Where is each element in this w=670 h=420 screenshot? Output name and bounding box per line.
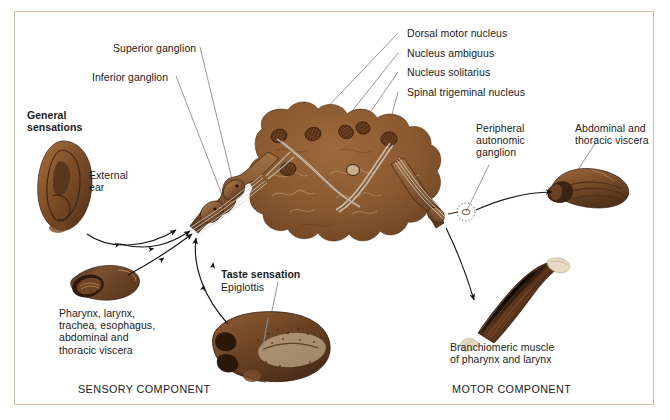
anatomy-figure: Superior ganglion Inferior ganglion Gene… [0,0,670,420]
label-superior-ganglion: Superior ganglion [113,42,196,54]
label-abdominal-thoracic-viscera: Abdominal and thoracic viscera [575,122,649,146]
label-spinal-trigeminal-nucleus: Spinal trigeminal nucleus [407,86,525,98]
label-branchiomeric-muscle: Branchiomeric muscle of pharynx and lary… [450,341,554,365]
label-motor-component: MOTOR COMPONENT [452,383,571,395]
label-epiglottis: Epiglottis [221,281,264,293]
label-nucleus-solitarius: Nucleus solitarius [407,66,490,78]
label-nucleus-ambiguus: Nucleus ambiguus [407,47,494,59]
label-sensory-component: SENSORY COMPONENT [78,383,210,395]
label-external-ear: External ear [89,169,128,193]
label-dorsal-motor-nucleus: Dorsal motor nucleus [407,27,507,39]
label-taste-sensation: Taste sensation [221,268,300,280]
label-peripheral-autonomic-ganglion: Peripheral autonomic ganglion [476,122,525,159]
label-inferior-ganglion: Inferior ganglion [92,71,168,83]
label-general-sensations: General sensations [27,109,82,133]
label-pharynx-larynx-list: Pharynx, larynx, trachea, esophagus, abd… [59,307,155,356]
